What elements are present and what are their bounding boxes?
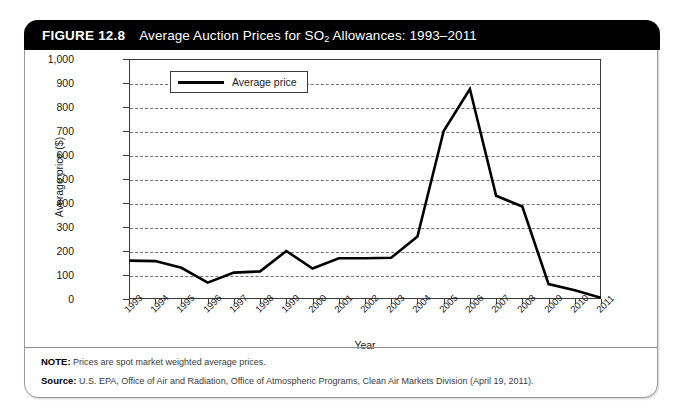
y-tick-label: 700 (56, 125, 74, 137)
y-tick-label: 1,000 (48, 53, 74, 65)
note-label: NOTE: (41, 356, 71, 367)
y-tick-label: 500 (56, 173, 74, 185)
y-tick-label: 0 (68, 293, 74, 305)
y-tick-label: 200 (56, 245, 74, 257)
y-tick-label: 800 (56, 101, 74, 113)
note-row: NOTE: Prices are spot market weighted av… (41, 353, 647, 372)
y-tick-label: 300 (56, 221, 74, 233)
source-text: U.S. EPA, Office of Air and Radiation, O… (79, 376, 534, 386)
series-layer (129, 59, 601, 299)
figure-title-bar: FIGURE 12.8 Average Auction Prices for S… (24, 20, 660, 50)
y-tick-label: 100 (56, 269, 74, 281)
figure-card: FIGURE 12.8 Average Auction Prices for S… (24, 20, 658, 398)
series-line-average-price (129, 89, 601, 298)
chart-region: Average price ($) 0100200300400500600700… (25, 51, 657, 347)
y-tick-label: 400 (56, 197, 74, 209)
source-label: Source: (41, 375, 76, 386)
legend-label-average-price: Average price (232, 76, 297, 88)
figure-number: FIGURE 12.8 (42, 28, 125, 43)
note-text: Prices are spot market weighted average … (73, 357, 266, 367)
source-row: Source: U.S. EPA, Office of Air and Radi… (41, 372, 647, 391)
figure-title-prefix: Average Auction Prices for SO (139, 28, 324, 43)
figure-notes: NOTE: Prices are spot market weighted av… (41, 353, 647, 390)
notes-divider (25, 347, 657, 348)
y-tick-label: 900 (56, 77, 74, 89)
figure-title-suffix: Allowances: 1993–2011 (329, 28, 477, 43)
chart-legend: Average price (170, 71, 308, 93)
legend-swatch-average-price (178, 81, 224, 84)
figure-title-subscript: 2 (324, 34, 329, 44)
y-tick-label: 600 (56, 149, 74, 161)
x-axis-title: Year (129, 339, 601, 351)
figure-title: Average Auction Prices for SO2 Allowance… (139, 28, 477, 43)
